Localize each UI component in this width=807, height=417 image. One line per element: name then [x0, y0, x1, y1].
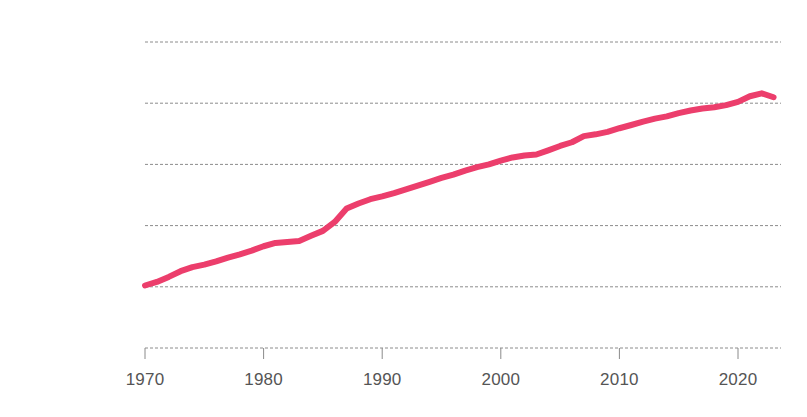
x-axis-tick-label: 1990 [342, 371, 422, 388]
x-axis-tick-label: 2010 [579, 371, 659, 388]
x-axis-tick-label: 1970 [105, 371, 185, 388]
x-axis-tick-label: 2000 [461, 371, 541, 388]
x-axis-labels: 197019801990200020102020 [0, 0, 807, 417]
x-axis-tick-label: 2020 [698, 371, 778, 388]
x-axis-tick-label: 1980 [224, 371, 304, 388]
chart-container: $100,000,000$10,000,000$1,000,000$100,00… [0, 0, 807, 417]
